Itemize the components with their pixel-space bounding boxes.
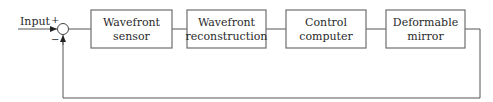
adaptive-optics-block-diagram: Input + − Wavefront sensor Wavefront rec…	[0, 0, 493, 102]
plus-sign: +	[51, 14, 59, 25]
block-label-line2: reconstruction	[186, 30, 268, 43]
block-label-line1: Wavefront	[103, 16, 161, 29]
block-label-line1: Wavefront	[198, 16, 256, 29]
summing-junction	[58, 24, 69, 35]
input-label: Input	[20, 15, 51, 28]
minus-sign: −	[51, 34, 59, 45]
block-label-line1: Deformable	[393, 16, 458, 29]
block-control-computer: Control computer	[286, 10, 366, 48]
block-wavefront-reconstruction: Wavefront reconstruction	[186, 10, 268, 48]
block-label-line1: Control	[305, 16, 347, 29]
block-wavefront-sensor: Wavefront sensor	[91, 10, 172, 48]
block-label-line2: mirror	[407, 30, 444, 43]
block-deformable-mirror: Deformable mirror	[386, 10, 465, 48]
block-label-line2: sensor	[113, 30, 151, 43]
block-label-line2: computer	[299, 30, 353, 43]
